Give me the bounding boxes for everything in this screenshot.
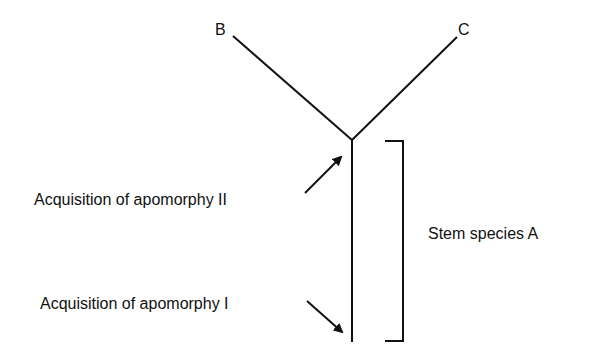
arrow-apomorphy-1	[307, 301, 342, 332]
label-apomorphy-2: Acquisition of apomorphy II	[34, 192, 227, 208]
node-label-b: B	[215, 22, 226, 38]
branch-c	[352, 37, 457, 140]
label-stem-species: Stem species A	[428, 226, 538, 242]
label-apomorphy-1: Acquisition of apomorphy I	[40, 296, 229, 312]
branch-b	[233, 36, 352, 140]
node-label-c: C	[458, 22, 470, 38]
arrow-apomorphy-2	[305, 157, 341, 193]
stem-bracket	[385, 141, 403, 341]
